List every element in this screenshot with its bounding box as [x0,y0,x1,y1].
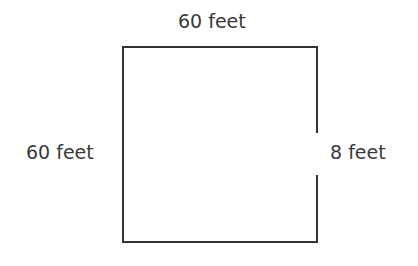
dimension-label-right: 8 feet [330,141,386,163]
diagram-canvas: 60 feet 60 feet 8 feet [0,0,418,266]
dimension-label-top: 60 feet [178,10,246,32]
dimension-label-left: 60 feet [26,141,94,163]
square-fence-diagram [0,0,418,266]
